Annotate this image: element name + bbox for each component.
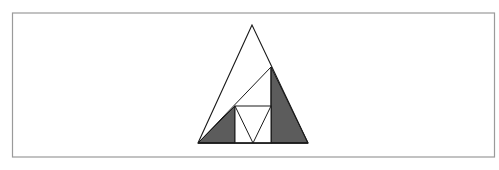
inner-square <box>235 106 271 143</box>
diagram-canvas <box>0 0 499 170</box>
triangle-dissection-figure <box>0 0 499 170</box>
